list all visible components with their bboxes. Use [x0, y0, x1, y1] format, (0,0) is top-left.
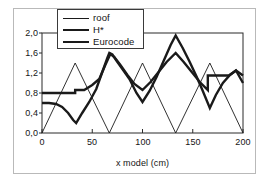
legend-label: H*	[93, 25, 104, 35]
y-tick-label: 0,4	[16, 108, 38, 118]
y-tick-label: 1,2	[16, 68, 38, 78]
y-tick-label: 2,0	[16, 28, 38, 38]
series-line-eurocode	[42, 53, 243, 93]
legend-label: roof	[93, 13, 110, 23]
legend-item-hstar: H*	[58, 24, 143, 36]
x-axis-ticks	[42, 129, 243, 133]
x-tick-label: 200	[231, 137, 255, 147]
x-tick-label: 0	[30, 137, 54, 147]
chart-legend: roof H* Eurocode	[57, 9, 144, 49]
legend-item-roof: roof	[58, 12, 143, 24]
chart-figure: 2,0 1,6 1,2 0,8 0,4 0,0 0 50 100 150 200…	[0, 0, 272, 186]
legend-line-icon-roof	[63, 18, 89, 19]
x-tick-label: 150	[181, 137, 205, 147]
series-line-roof	[42, 63, 243, 133]
legend-item-eurocode: Eurocode	[58, 36, 143, 48]
x-tick-label: 50	[80, 137, 104, 147]
x-axis-title: x model (cm)	[42, 158, 243, 168]
legend-line-icon-hstar	[63, 29, 89, 32]
y-tick-label: 0,8	[16, 88, 38, 98]
data-series-group	[42, 36, 243, 134]
legend-label: Eurocode	[93, 37, 134, 47]
y-tick-label: 1,6	[16, 48, 38, 58]
x-tick-label: 100	[131, 137, 155, 147]
legend-line-icon-eurocode	[63, 41, 89, 44]
